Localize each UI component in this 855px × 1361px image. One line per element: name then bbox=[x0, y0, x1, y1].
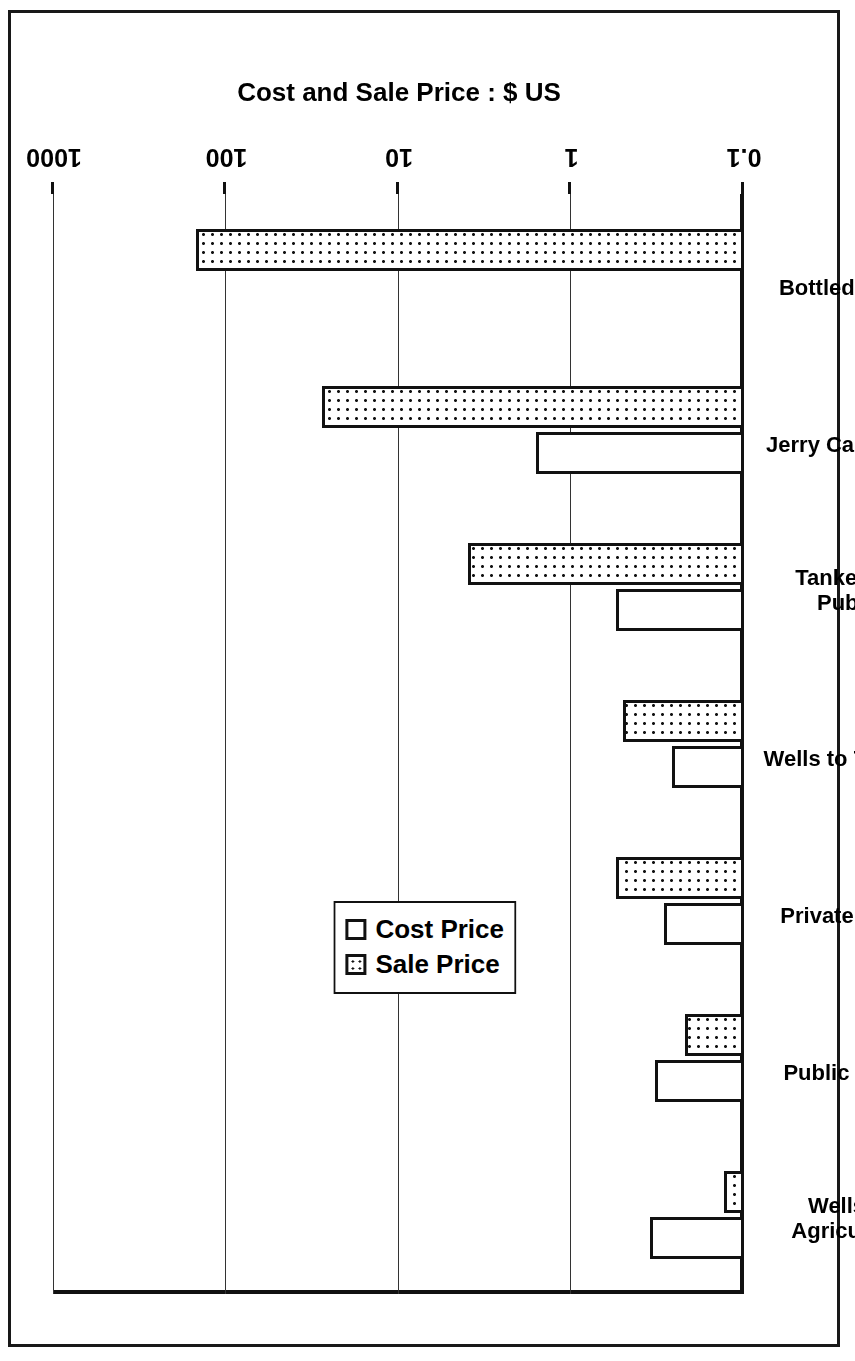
rotated-chart-container: 10001001010.1 Wells to AgriculturePublic… bbox=[20, 22, 832, 1334]
legend-label: Cost Price bbox=[375, 914, 504, 945]
bar-cost-price bbox=[616, 589, 744, 631]
bar-sale-price bbox=[724, 1171, 744, 1213]
category-label: Tankers to Public bbox=[760, 566, 855, 615]
tick-1 bbox=[569, 182, 572, 194]
legend-item-sale-price: Sale Price bbox=[345, 949, 504, 980]
bar-rows bbox=[54, 194, 744, 1294]
category-label: Public Utility bbox=[760, 1062, 855, 1087]
legend-item-cost-price: Cost Price bbox=[345, 914, 504, 945]
bar-cost-price bbox=[672, 746, 744, 788]
tick-0.1 bbox=[741, 182, 744, 194]
category-label: Private Piped bbox=[760, 905, 855, 930]
bar-sale-price bbox=[196, 229, 744, 271]
bar-cost-price bbox=[650, 1217, 744, 1259]
chart-page: 10001001010.1 Wells to AgriculturePublic… bbox=[0, 0, 855, 1361]
tick-1000 bbox=[51, 182, 54, 194]
chart-legend: Cost PriceSale Price bbox=[333, 901, 516, 994]
plot-area: 10001001010.1 Wells to AgriculturePublic… bbox=[54, 194, 744, 1294]
bar-sale-price bbox=[685, 1014, 744, 1056]
axis-title: Cost and Sale Price : $ US bbox=[237, 77, 561, 108]
tick-label-1: 1 bbox=[565, 143, 579, 172]
category-label: Jerry Can Water bbox=[760, 433, 855, 458]
tick-label-100: 100 bbox=[206, 143, 248, 172]
bar-sale-price bbox=[322, 386, 744, 428]
tick-label-0.1: 0.1 bbox=[727, 143, 762, 172]
bar-cost-price bbox=[655, 1060, 744, 1102]
legend-label: Sale Price bbox=[375, 949, 499, 980]
tick-100 bbox=[224, 182, 227, 194]
category-label: Bottled Water bbox=[760, 276, 855, 301]
bar-cost-price bbox=[536, 432, 744, 474]
bar-sale-price bbox=[616, 857, 744, 899]
bar-sale-price bbox=[623, 700, 744, 742]
bar-sale-price bbox=[468, 543, 744, 585]
tick-10 bbox=[396, 182, 399, 194]
category-label: Wells to Agriculture bbox=[760, 1194, 855, 1243]
dotted-swatch-icon bbox=[345, 954, 366, 975]
tick-label-1000: 1000 bbox=[26, 143, 82, 172]
bar-cost-price bbox=[664, 903, 744, 945]
white-swatch-icon bbox=[345, 919, 366, 940]
category-label: Wells to Tankers bbox=[760, 747, 855, 772]
tick-label-10: 10 bbox=[385, 143, 413, 172]
